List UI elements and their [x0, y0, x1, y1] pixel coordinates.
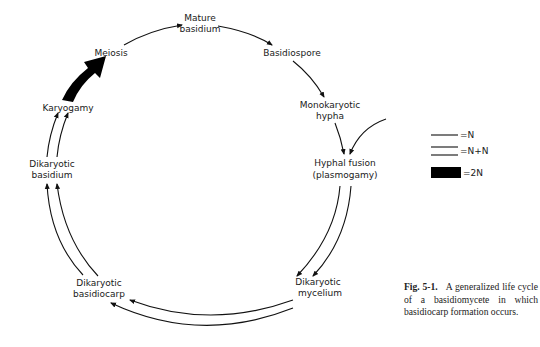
- arrow-external-to-fusion: [350, 119, 386, 154]
- arrow-mycelium-to-basidiocarp-2: [111, 303, 293, 325]
- label-karyogamy: Karyogamy: [42, 103, 94, 113]
- label-dikaryotic-basidium-1: Dikaryotic: [29, 159, 75, 169]
- label-fusion-2: (plasmogamy): [312, 170, 377, 180]
- arrow-basidiocarp-to-basidium-1: [47, 184, 83, 275]
- arrow-basidiocarp-to-basidium-2: [57, 184, 98, 276]
- label-basidiospore: Basidiospore: [263, 48, 321, 58]
- figure-caption: Fig. 5-1. A generalized life cycle of a …: [404, 281, 538, 319]
- arrow-fusion-to-mycelium-2: [313, 186, 351, 276]
- label-dikaryotic-basidium-2: basidium: [31, 170, 72, 180]
- arrow-basidium-to-karyogamy-2: [57, 113, 68, 157]
- label-dikaryotic-mycelium-2: mycelium: [298, 288, 342, 298]
- label-monokaryotic-1: Monokaryotic: [300, 100, 361, 110]
- arrow-karyogamy-to-meiosis-2n: [62, 56, 106, 102]
- label-monokaryotic-2: hypha: [316, 111, 344, 121]
- label-mature-basidium-2: basidium: [179, 24, 220, 34]
- arrow-mature-to-basidiospore: [218, 26, 272, 45]
- arrow-mycelium-to-basidiocarp-1: [130, 300, 293, 315]
- legend-single-label: =N: [460, 130, 474, 140]
- label-meiosis: Meiosis: [94, 48, 127, 58]
- legend-double-label: =N+N: [460, 146, 489, 156]
- label-fusion-1: Hyphal fusion: [314, 158, 376, 168]
- arrow-fusion-to-mycelium-1: [297, 186, 340, 276]
- label-dikaryotic-mycelium-1: Dikaryotic: [295, 277, 341, 287]
- figure-number: Fig. 5-1.: [404, 281, 438, 292]
- arrow-meiosis-to-mature-basidium: [124, 25, 182, 45]
- legend: =N =N+N =2N: [431, 130, 489, 178]
- label-mature-basidium-1: Mature: [184, 13, 216, 23]
- legend-solid-bar: [431, 167, 461, 178]
- arrow-basidium-to-karyogamy-1: [47, 113, 58, 157]
- arrow-basidiospore-to-monokaryotic: [293, 61, 324, 97]
- label-dikaryotic-basidiocarp-2: basidiocarp: [73, 289, 125, 299]
- label-dikaryotic-basidiocarp-1: Dikaryotic: [76, 278, 122, 288]
- arrow-monokaryotic-to-fusion: [335, 123, 344, 154]
- legend-solid-label: =2N: [463, 168, 483, 178]
